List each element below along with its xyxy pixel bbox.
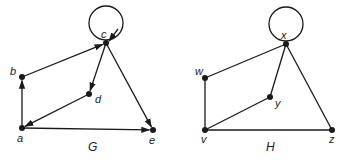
edge-c-e [106,43,151,127]
edge-d-a [25,94,89,126]
node-label-d: d [95,93,102,105]
edge-x-z [286,44,332,130]
node-label-y: y [274,97,282,109]
node-b [19,74,25,80]
node-d [86,91,92,97]
node-label-z: z [328,133,335,145]
node-label-x: x [280,29,287,41]
edge-y-v [205,97,270,130]
node-label-b: b [10,65,16,77]
edge-w-x [205,44,286,78]
node-c [103,40,109,46]
node-x [283,41,289,47]
edge-x-y [270,44,286,97]
node-label-v: v [201,133,208,145]
node-e [150,127,156,133]
graph-H: vwxyzH [195,7,335,154]
graph-title-G: G [88,140,97,154]
graph-title-H: H [266,140,275,154]
node-label-e: e [149,134,155,146]
graph-diagram-canvas: abcdeGvwxyzH [0,0,350,160]
node-y [267,94,273,100]
graph-G: abcdeG [10,6,156,154]
edge-b-c [22,44,103,77]
node-label-c: c [101,28,107,40]
node-a [19,125,25,131]
loop-arrow-c [109,29,118,41]
edge-a-e [22,128,150,130]
edge-c-d [90,43,106,91]
node-label-w: w [195,65,204,77]
node-label-a: a [17,132,23,144]
